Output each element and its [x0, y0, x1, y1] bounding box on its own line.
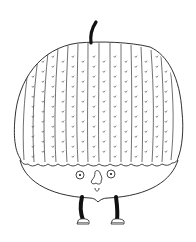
cap-ribs: [23, 43, 173, 163]
left-shoe: [77, 219, 89, 224]
right-leg: [116, 197, 117, 220]
acorn-character-drawing: [0, 0, 196, 242]
left-pupil: [79, 174, 81, 176]
right-shoe: [111, 219, 124, 224]
left-leg: [81, 197, 83, 220]
rib-tick-marks: [32, 56, 167, 158]
stem: [91, 22, 96, 43]
right-pupil: [110, 173, 112, 175]
illustration-canvas: [0, 0, 196, 242]
ribbed-cap-outline: [14, 43, 78, 158]
